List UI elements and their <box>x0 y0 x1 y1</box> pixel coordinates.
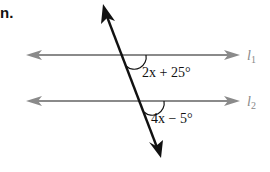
parallel-line-l2 <box>26 96 240 106</box>
angle-label-l2: 4x − 5° <box>151 111 193 126</box>
angle-label-l1: 2x + 25° <box>142 65 191 80</box>
transversal-line <box>101 4 163 158</box>
line-label-l2: l2 <box>247 94 256 111</box>
parallel-lines-diagram: 2x + 25° 4x − 5° l1 l2 <box>0 0 270 172</box>
parallel-line-l1 <box>26 50 240 60</box>
line-label-l1: l1 <box>247 48 256 65</box>
